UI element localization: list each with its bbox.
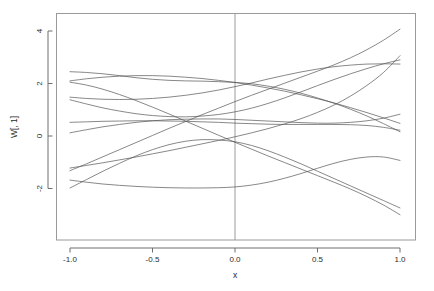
line-chart: -1.0-0.50.00.51.0 -2024 x W[, 1] bbox=[0, 0, 434, 291]
y-tick-label-2: 2 bbox=[35, 81, 44, 86]
y-axis-title: W[, 1] bbox=[9, 116, 19, 138]
chart-container: -1.0-0.50.00.51.0 -2024 x W[, 1] bbox=[0, 0, 434, 291]
chart-background bbox=[0, 0, 434, 291]
x-tick-label-3: 0.5 bbox=[312, 255, 324, 264]
x-tick-label-4: 1.0 bbox=[394, 255, 406, 264]
x-tick-label-1: -0.5 bbox=[146, 255, 160, 264]
y-tick-label-3: 4 bbox=[35, 28, 44, 33]
y-tick-label-0: -2 bbox=[35, 184, 44, 192]
y-tick-label-1: 0 bbox=[35, 133, 44, 138]
x-tick-label-2: 0.0 bbox=[229, 255, 241, 264]
x-tick-label-0: -1.0 bbox=[63, 255, 77, 264]
